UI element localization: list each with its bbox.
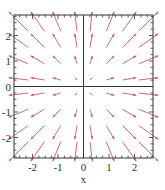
x-axis-title: x — [81, 173, 87, 185]
x-tick-label: -2 — [28, 161, 37, 173]
vector-arrow — [74, 126, 77, 140]
vector-arrow — [123, 34, 137, 48]
vector-arrow — [53, 56, 61, 64]
vector-arrow — [123, 126, 137, 140]
vector-arrow — [53, 77, 61, 80]
y-tick-label: -1 — [2, 106, 11, 118]
vector-arrow — [9, 77, 29, 80]
y-tick-label: -2 — [2, 132, 11, 144]
vector-arrow — [106, 56, 114, 64]
vector-arrow — [90, 56, 93, 64]
vector-arrow — [90, 78, 92, 80]
vector-arrow — [106, 93, 114, 96]
vector-arrow — [9, 126, 29, 140]
vector-arrow — [90, 109, 93, 117]
vector-arrow — [31, 109, 45, 117]
vector-arrow — [90, 34, 93, 48]
vector-arrow — [139, 77, 159, 80]
vector-arrow — [139, 56, 159, 64]
vector-arrow — [90, 93, 92, 95]
vector-arrow — [75, 78, 77, 80]
vector-arrow — [53, 93, 61, 96]
vector-arrow — [123, 56, 137, 64]
vector-arrow — [123, 109, 137, 117]
vector-arrow — [53, 126, 61, 140]
vector-arrow — [139, 34, 159, 48]
x-tick-label: 1 — [106, 161, 112, 173]
y-tick-label: 0 — [6, 81, 12, 93]
x-tick-label: 0 — [81, 161, 87, 173]
vector-arrow — [9, 56, 29, 64]
vector-arrow — [9, 93, 29, 96]
vector-arrow — [106, 34, 114, 48]
y-tick-labels: -2-1012 — [2, 30, 12, 144]
vector-arrow — [53, 34, 61, 48]
vector-arrow — [53, 109, 61, 117]
vector-arrow — [123, 77, 137, 80]
vector-arrow — [106, 126, 114, 140]
vector-arrow — [90, 126, 93, 140]
vector-arrow — [139, 126, 159, 140]
vector-arrow — [75, 93, 77, 95]
vector-arrow — [9, 109, 29, 117]
vector-arrow — [123, 93, 137, 96]
x-tick-label: 2 — [132, 161, 138, 173]
vector-arrow — [74, 109, 77, 117]
vector-field-chart: -2-1012 -2-1012 x — [0, 0, 165, 190]
vector-arrow — [31, 34, 45, 48]
vector-arrow — [31, 126, 45, 140]
vector-arrow — [31, 77, 45, 80]
vector-arrow — [74, 56, 77, 64]
x-tick-label: -1 — [53, 161, 62, 173]
vector-arrow — [106, 109, 114, 117]
vector-arrow — [106, 77, 114, 80]
vector-arrow — [74, 34, 77, 48]
vector-arrow — [139, 93, 159, 96]
x-tick-labels: -2-1012 — [28, 161, 137, 173]
vector-arrow — [31, 93, 45, 96]
y-tick-label: 1 — [6, 55, 12, 67]
vector-arrow — [139, 109, 159, 117]
y-tick-label: 2 — [6, 30, 12, 42]
vector-arrow — [9, 34, 29, 48]
zero-axes — [14, 15, 153, 158]
vector-arrow — [31, 56, 45, 64]
